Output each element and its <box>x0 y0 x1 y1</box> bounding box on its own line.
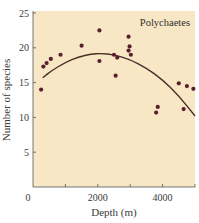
data-point <box>97 59 101 63</box>
data-point <box>126 48 130 52</box>
data-point <box>114 74 118 78</box>
data-point <box>112 53 116 57</box>
data-point <box>97 28 101 32</box>
data-point <box>127 44 131 48</box>
x-axis-title: Depth (m) <box>91 206 137 219</box>
data-point <box>45 61 49 65</box>
panel-label: Polychaetes <box>140 17 190 28</box>
data-point <box>39 87 43 91</box>
y-axis-title: Number of species <box>0 59 12 141</box>
data-point <box>126 35 130 39</box>
data-point <box>129 53 133 57</box>
data-point <box>41 64 45 68</box>
x-tick-label: 0 <box>26 192 31 203</box>
y-tick-label: 15 <box>19 77 29 88</box>
y-tick-label: 20 <box>19 42 29 53</box>
scatter-chart: 510152025020004000 Polychaetes Depth (m)… <box>0 0 199 223</box>
data-point <box>58 53 62 57</box>
data-point <box>80 44 84 48</box>
data-point <box>49 57 53 61</box>
data-point <box>191 87 195 91</box>
y-tick-label: 25 <box>19 8 29 19</box>
x-tick-label: 4000 <box>153 192 173 203</box>
data-point <box>115 55 119 59</box>
plot-area <box>33 11 195 187</box>
data-point <box>185 84 189 88</box>
y-tick-label: 10 <box>19 112 29 123</box>
data-point <box>182 107 186 111</box>
data-point <box>156 105 160 109</box>
y-tick-label: 5 <box>24 147 29 158</box>
data-point <box>177 81 181 85</box>
x-tick-label: 2000 <box>88 192 108 203</box>
data-point <box>154 110 158 114</box>
